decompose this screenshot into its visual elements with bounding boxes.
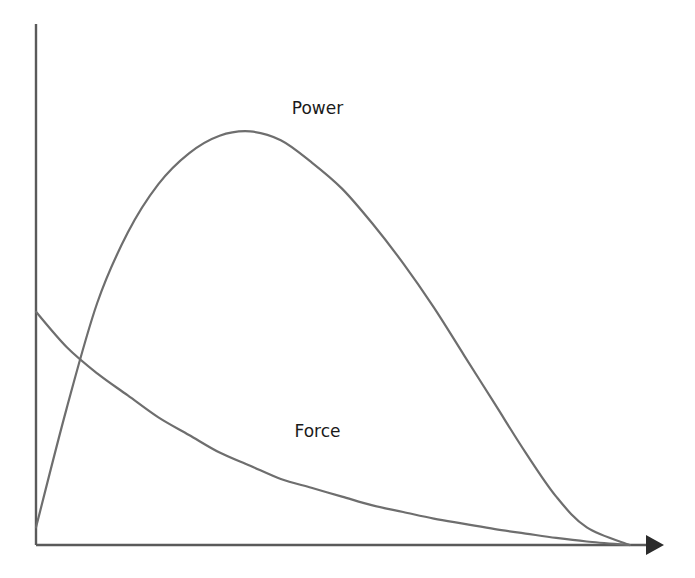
labels: Power Force bbox=[292, 98, 343, 441]
series-group bbox=[36, 131, 630, 545]
x-axis-arrowhead bbox=[646, 535, 664, 555]
power-curve bbox=[36, 131, 630, 545]
axes bbox=[36, 24, 664, 555]
power-label: Power bbox=[292, 98, 343, 118]
power-force-chart: Power Force bbox=[0, 0, 695, 578]
force-label: Force bbox=[295, 421, 341, 441]
